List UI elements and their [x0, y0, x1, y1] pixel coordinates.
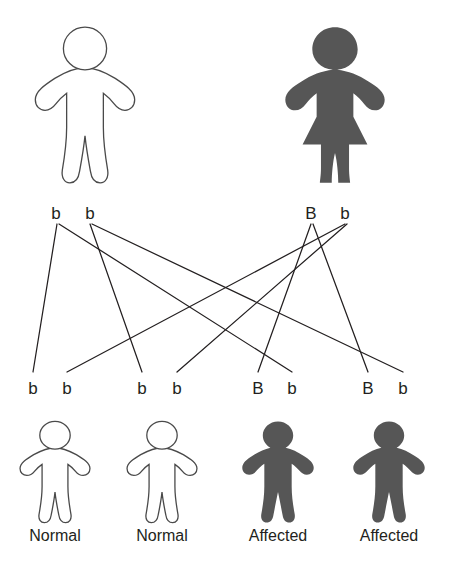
- child-caption-1: Normal: [0, 527, 115, 545]
- genetic-cross-diagram: bbBb bbbbBbBb NormalNormalAffectedAffect…: [0, 0, 453, 571]
- child-caption-3: Affected: [218, 527, 338, 545]
- child-captions-row: NormalNormalAffectedAffected: [0, 0, 453, 571]
- child-caption-4: Affected: [329, 527, 449, 545]
- child-caption-2: Normal: [102, 527, 222, 545]
